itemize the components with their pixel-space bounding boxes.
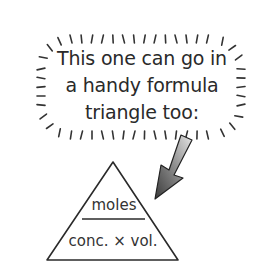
bubble-line-1: This one can go in — [40, 45, 244, 72]
illustration: This one can go in a handy formula trian… — [0, 0, 272, 280]
triangle-top-label: moles — [83, 196, 145, 214]
bubble-line-2: a handy formula — [40, 72, 244, 99]
arrow-icon — [155, 135, 192, 199]
speech-bubble-text: This one can go in a handy formula trian… — [40, 45, 244, 126]
bubble-line-3: triangle too: — [40, 99, 244, 126]
triangle-bottom-label: conc. × vol. — [62, 232, 164, 250]
